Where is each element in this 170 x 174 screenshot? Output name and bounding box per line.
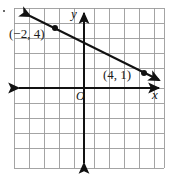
point-label-minus2-4: (−2, 4) xyxy=(9,27,45,40)
point-marker-4-1 xyxy=(141,70,147,76)
plotted-line xyxy=(30,16,159,80)
speck-artifact xyxy=(3,10,5,12)
x-axis-label: x xyxy=(152,88,158,101)
point-marker-minus2-4 xyxy=(52,25,58,31)
graph-figure: (−2, 4) (4, 1) y x O xyxy=(0,0,170,174)
origin-label: O xyxy=(76,90,85,102)
point-label-4-1: (4, 1) xyxy=(103,68,131,81)
y-axis-label: y xyxy=(71,7,77,20)
